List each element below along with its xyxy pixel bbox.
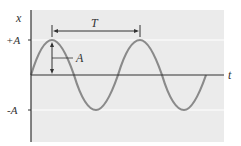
plot-panel	[31, 10, 224, 142]
shm-diagram: x t +A -A T A	[0, 0, 241, 146]
y-axis-label: x	[15, 11, 22, 25]
tick-label-minus-a: -A	[7, 104, 18, 116]
amplitude-label: A	[75, 51, 84, 65]
x-axis-label: t	[228, 68, 232, 82]
tick-label-plus-a: +A	[6, 34, 20, 46]
